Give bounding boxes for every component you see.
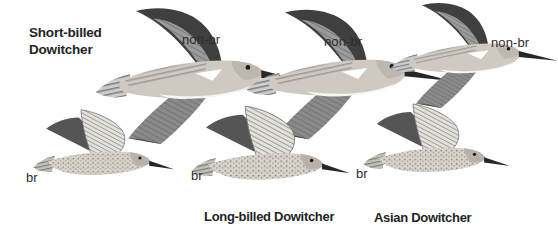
species-label-short-billed-dowitcher: Short-billed Dowitcher	[29, 24, 102, 58]
asian-dowitcher-nonbreeding-illustration	[388, 0, 558, 111]
species-label-line2: Dowitcher	[29, 41, 102, 58]
plumage-label-nonbr-longbilled: non-br	[324, 34, 362, 49]
plumage-label-br-shortbilled: br	[26, 170, 38, 185]
plumage-label-br-asian: br	[356, 166, 368, 181]
species-label-line1: Short-billed	[29, 24, 102, 41]
plumage-label-br-longbilled: br	[191, 168, 203, 183]
field-guide-plate: Short-billed Dowitcher non-br non-br non…	[0, 0, 558, 234]
shortbilled-dowitcher-breeding-illustration	[32, 106, 174, 195]
longbilled-dowitcher-breeding-illustration	[190, 102, 350, 202]
species-label-asian-dowitcher: Asian Dowitcher	[374, 210, 471, 225]
asian-dowitcher-breeding-illustration	[362, 100, 510, 193]
plumage-label-nonbr-asian: non-br	[491, 35, 529, 50]
plumage-label-nonbr-shortbilled: non-br	[182, 32, 220, 47]
species-label-long-billed-dowitcher: Long-billed Dowitcher	[204, 209, 334, 224]
